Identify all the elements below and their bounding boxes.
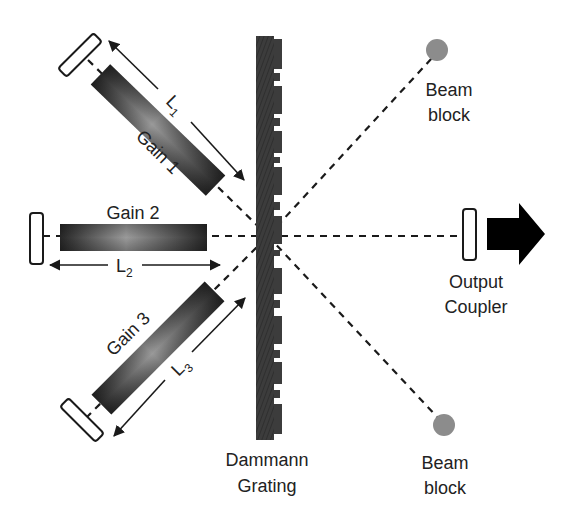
end-mirror-1 xyxy=(58,33,102,77)
beam-block-top-icon xyxy=(426,39,448,61)
beam-block-bottom-icon xyxy=(433,414,455,436)
end-mirror-2 xyxy=(30,213,43,264)
beam-block-bottom: Beam block xyxy=(421,414,468,498)
dammann-grating xyxy=(256,36,282,440)
output-beam-arrow-icon xyxy=(487,203,545,265)
output-coupler-mirror xyxy=(463,209,476,260)
length-label-1: L1 xyxy=(159,91,188,120)
beam-block-bottom-label-2: block xyxy=(424,478,467,498)
length-label-2: L2 xyxy=(116,256,133,280)
beam-block-top-label-2: block xyxy=(428,105,471,125)
arm-1: L1 Gain 1 xyxy=(58,33,244,196)
arm-2: Gain 2 L2 xyxy=(30,203,220,280)
beam-block-bottom-label-1: Beam xyxy=(421,453,468,473)
laser-cavity-diagram: L1 Gain 1 Gain 2 L2 L3 Gain 3 xyxy=(0,0,571,519)
output-coupler-label-2: Coupler xyxy=(444,297,507,317)
beam-path-block-top xyxy=(268,58,432,236)
gain-label-2: Gain 2 xyxy=(106,203,159,223)
grating-label-2: Grating xyxy=(237,476,296,496)
output-coupler-label-1: Output xyxy=(449,272,503,292)
grating-label-1: Dammann xyxy=(225,450,308,470)
beam-path-block-bottom xyxy=(268,236,438,418)
end-mirror-3 xyxy=(60,398,104,442)
length-label-3: L3 xyxy=(167,354,196,383)
beam-block-top: Beam block xyxy=(425,39,472,125)
arm-3: L3 Gain 3 xyxy=(60,282,245,442)
beam-block-top-label-1: Beam xyxy=(425,80,472,100)
